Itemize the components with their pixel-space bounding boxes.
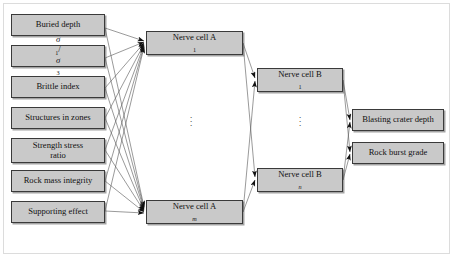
hidden-a-node-subscript: m [192,215,196,222]
hidden-b-node-prefix: Nerve cell B [276,70,323,79]
output-node-rock-burst-grade[interactable]: Rock burst grade [352,142,444,164]
hidden-a-node-prefix: Nerve cell A [171,33,218,42]
input-node-label: Brittle index [34,82,81,91]
output-node-label: Rock burst grade [367,148,430,157]
input-node-strength-stress-ratio[interactable]: Strength stress ratio [11,138,105,163]
hidden-a-node-label: Nerve cell Am [169,202,220,223]
hidden-b-node-prefix: Nerve cell B [276,170,323,179]
input-node-supporting-effect[interactable]: Supporting effect [11,201,105,223]
input-node-label: Structures in zones [23,113,92,122]
hidden-a-node-label: Nerve cell A1 [169,33,220,54]
hidden-a-node-subscript: 1 [193,46,196,53]
input-node-structures-in-zones[interactable]: Structures in zones [11,107,105,129]
input-node-label-line2: ratio [31,151,85,160]
output-node-label: Blasting crater depth [360,115,436,124]
input-node-label: Strength stress ratio [29,141,87,160]
sigma-sub-3: 3 [56,69,59,76]
hidden-b-node-label: Nerve cell Bn [274,170,325,191]
input-node-label: σ1/σ3 [52,35,64,76]
input-node-label: Buried depth [34,20,83,29]
sigma-symbol-2: σ [54,56,62,65]
hidden-a-node-prefix: Nerve cell A [171,202,218,211]
input-node-label: Supporting effect [26,207,90,216]
sigma-symbol: σ [54,35,62,44]
hidden-b-node-n[interactable]: Nerve cell Bn [257,168,343,192]
figure-canvas: Buried depth σ1/σ3 Brittle index Structu… [0,0,455,259]
hidden-b-node-subscript: n [298,183,301,190]
input-node-stress-ratio-sigma[interactable]: σ1/σ3 [11,45,105,67]
hidden-b-ellipsis: ... [290,114,310,126]
hidden-a-ellipsis: ... [181,114,201,126]
input-node-rock-mass-integrity[interactable]: Rock mass integrity [11,170,105,192]
hidden-a-node-1[interactable]: Nerve cell A1 [146,31,243,55]
hidden-a-node-m[interactable]: Nerve cell Am [146,200,243,224]
hidden-b-node-1[interactable]: Nerve cell B1 [257,68,343,92]
output-node-blasting-crater-depth[interactable]: Blasting crater depth [352,109,444,131]
hidden-b-node-subscript: 1 [298,83,301,90]
hidden-b-node-label: Nerve cell B1 [274,70,325,91]
input-node-buried-depth[interactable]: Buried depth [11,14,105,36]
input-node-brittle-index[interactable]: Brittle index [11,76,105,98]
input-node-label: Rock mass integrity [22,176,95,185]
